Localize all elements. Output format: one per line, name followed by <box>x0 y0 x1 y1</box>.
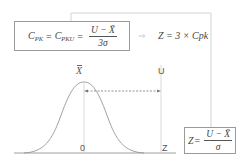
z-label: Z <box>162 143 168 153</box>
z-cpk-relation: Z = 3 × Cpk <box>158 30 208 41</box>
cpk-formula: CPK = CPKU = U − X̄ 3σ <box>28 23 117 49</box>
z-fraction: U − X̄ σ <box>204 129 232 152</box>
z-lhs: Z <box>188 135 194 146</box>
zero-label: 0 <box>80 143 85 153</box>
cpk-lhs: CPK <box>28 30 43 42</box>
cpk-denominator: 3σ <box>98 37 107 48</box>
equals-sign: = <box>77 31 83 42</box>
implies-arrow-icon: ⇒ <box>138 31 146 41</box>
cpku-term: CPKU <box>55 30 75 42</box>
mean-label: X <box>76 65 82 76</box>
upper-limit-label: U <box>158 66 165 76</box>
cpk-fraction: U − X̄ 3σ <box>89 25 117 48</box>
z-numerator: U − X̄ <box>204 129 232 141</box>
z-denominator: σ <box>216 141 221 152</box>
equals-sign: = <box>195 135 201 146</box>
z-formula: Z = U − X̄ σ <box>188 128 232 153</box>
cpk-numerator: U − X̄ <box>89 25 117 37</box>
equals-sign: = <box>46 31 52 42</box>
